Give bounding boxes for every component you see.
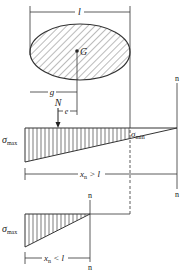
svg-text:xn < l: xn < l <box>43 253 65 264</box>
svg-text:xn > l: xn > l <box>79 169 101 180</box>
centroid-label: G <box>80 46 87 57</box>
load-arrow: N <box>54 97 63 128</box>
neutral-axis-case-2: n n <box>88 191 92 272</box>
neutral-distance-dimension-1: xn > l <box>25 168 177 180</box>
stress-diagram-case-2: σmax <box>2 185 130 247</box>
sigma-max-label-1: σmax <box>2 134 17 146</box>
width-label: l <box>78 6 81 17</box>
sigma-max-label-2: σmax <box>2 223 17 235</box>
sigma-min-label: σmin <box>131 129 145 140</box>
svg-text:g: g <box>50 87 55 97</box>
neutral-axis-case-1: n n <box>175 74 179 199</box>
svg-text:n: n <box>175 190 179 199</box>
svg-text:e: e <box>65 107 69 116</box>
svg-text:n: n <box>175 74 179 83</box>
load-label: N <box>54 97 63 108</box>
stress-diagram: l G g N e <box>0 0 186 276</box>
centroid-distance-dimension: g <box>30 87 77 97</box>
svg-text:n: n <box>88 263 92 272</box>
svg-text:n: n <box>88 191 92 200</box>
neutral-distance-dimension-2: xn < l <box>25 252 90 264</box>
